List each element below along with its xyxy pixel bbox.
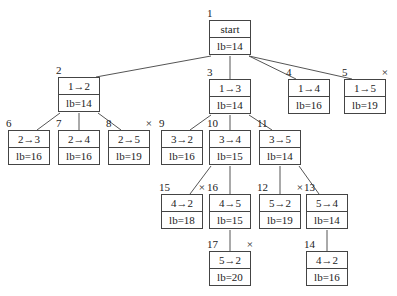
node-lower-bound: lb=16 (162, 148, 202, 164)
node-step: 2→3 (9, 131, 49, 148)
node-box: 4→5lb=15 (209, 194, 251, 229)
node-step: 2→5 (109, 131, 149, 148)
node-step: start (210, 21, 250, 38)
node-number: 7 (56, 117, 62, 129)
edge-1-2 (96, 56, 211, 77)
node-number: 14 (304, 238, 315, 250)
node-number: 2 (56, 64, 62, 76)
node-lower-bound: lb=20 (210, 269, 250, 285)
node-box: 3→4lb=15 (209, 130, 251, 165)
node-number: 1 (207, 7, 213, 19)
pruned-cross-icon: × (146, 117, 152, 129)
node-number: 15 (159, 181, 170, 193)
node-step: 1→2 (59, 78, 99, 95)
node-lower-bound: lb=16 (307, 269, 347, 285)
node-box: 1→3lb=14 (209, 79, 251, 114)
node-step: 4→2 (307, 252, 347, 269)
node-step: 3→4 (210, 131, 250, 148)
node-number: 9 (159, 117, 165, 129)
node-box: 1→2lb=14 (58, 77, 100, 112)
node-lower-bound: lb=19 (345, 97, 385, 113)
pruned-cross-icon: × (247, 238, 253, 250)
node-box: 4→2lb=18 (161, 194, 203, 229)
node-lower-bound: lb=19 (260, 212, 300, 228)
node-step: 1→4 (289, 80, 329, 97)
node-step: 3→2 (162, 131, 202, 148)
node-box: 1→5lb=19 (344, 79, 386, 114)
node-box: 3→2lb=16 (161, 130, 203, 165)
node-box: 2→4lb=16 (58, 130, 100, 165)
node-step: 2→4 (59, 131, 99, 148)
node-step: 1→5 (345, 80, 385, 97)
node-number: 12 (257, 181, 268, 193)
node-step: 5→4 (307, 195, 347, 212)
node-lower-bound: lb=16 (9, 148, 49, 164)
node-lower-bound: lb=14 (307, 212, 347, 228)
node-box: 4→2lb=16 (306, 251, 348, 286)
node-box: startlb=14 (209, 20, 251, 55)
node-number: 13 (304, 181, 315, 193)
node-number: 8 (106, 117, 112, 129)
node-box: 1→4lb=16 (288, 79, 330, 114)
pruned-cross-icon: × (297, 181, 303, 193)
node-box: 3→5lb=14 (259, 130, 301, 165)
node-lower-bound: lb=15 (210, 148, 250, 164)
node-number: 10 (207, 117, 218, 129)
node-step: 4→5 (210, 195, 250, 212)
node-box: 5→4lb=14 (306, 194, 348, 229)
node-lower-bound: lb=16 (59, 148, 99, 164)
node-number: 4 (286, 66, 292, 78)
node-box: 5→2lb=20 (209, 251, 251, 286)
node-lower-bound: lb=18 (162, 212, 202, 228)
node-number: 3 (207, 66, 213, 78)
node-step: 4→2 (162, 195, 202, 212)
node-step: 5→2 (260, 195, 300, 212)
pruned-cross-icon: × (199, 181, 205, 193)
node-lower-bound: lb=14 (210, 38, 250, 54)
node-lower-bound: lb=14 (260, 148, 300, 164)
node-number: 11 (257, 117, 268, 129)
node-box: 5→2lb=19 (259, 194, 301, 229)
node-lower-bound: lb=14 (210, 97, 250, 113)
node-box: 2→5lb=19 (108, 130, 150, 165)
node-number: 6 (6, 117, 12, 129)
pruned-cross-icon: × (382, 66, 388, 78)
node-lower-bound: lb=19 (109, 148, 149, 164)
node-lower-bound: lb=16 (289, 97, 329, 113)
edge-1-5 (249, 56, 352, 79)
node-box: 2→3lb=16 (8, 130, 50, 165)
node-lower-bound: lb=15 (210, 212, 250, 228)
node-step: 3→5 (260, 131, 300, 148)
node-step: 5→2 (210, 252, 250, 269)
node-lower-bound: lb=14 (59, 95, 99, 111)
node-number: 16 (207, 181, 218, 193)
node-step: 1→3 (210, 80, 250, 97)
node-number: 5 (342, 66, 348, 78)
node-number: 17 (207, 238, 218, 250)
